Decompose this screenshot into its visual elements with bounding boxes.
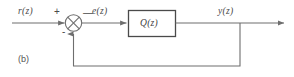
sign-minus-feedback: - [62, 27, 65, 37]
signal-label-input: r(z) [18, 7, 33, 17]
panel-label: (b) [18, 55, 29, 64]
block-diagram-figure: r(z) + — e(z) Q(z) y(z) - (b) [0, 0, 294, 77]
sign-plus: + [54, 7, 60, 17]
signal-label-output: y(z) [218, 7, 233, 17]
diagram-canvas [0, 0, 294, 77]
controller-block-label: Q(z) [140, 19, 158, 29]
signal-label-error: e(z) [92, 7, 107, 17]
